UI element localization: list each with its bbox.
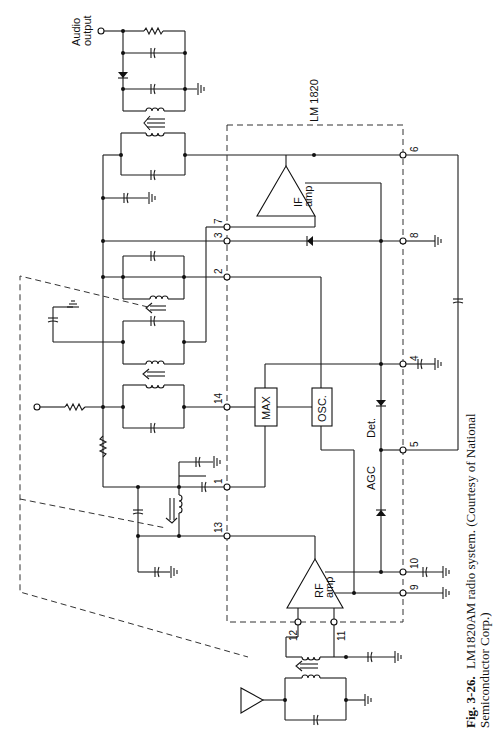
svg-text:13: 13 bbox=[213, 521, 224, 533]
audio-output-label: Audio output bbox=[70, 15, 93, 46]
svg-text:11: 11 bbox=[336, 630, 347, 641]
chip-label: LM 1820 bbox=[308, 79, 320, 122]
ground-icon bbox=[443, 587, 449, 599]
svg-text:OSC.: OSC. bbox=[316, 395, 328, 422]
svg-text:1: 1 bbox=[213, 478, 224, 484]
svg-text:5: 5 bbox=[409, 441, 420, 447]
inductor-icon bbox=[146, 385, 164, 388]
caption-text-line2: Semiconductor Corp.) bbox=[477, 612, 492, 728]
pin-10 bbox=[400, 569, 406, 575]
svg-text:2: 2 bbox=[213, 268, 224, 274]
if-tank-pin7 bbox=[48, 227, 227, 379]
pin-6 bbox=[400, 152, 406, 158]
inductor-icon bbox=[146, 133, 164, 136]
if-amp-block: IF amp bbox=[227, 153, 381, 572]
mixer-tank-pin14 bbox=[34, 385, 227, 433]
ground-icon bbox=[435, 358, 441, 370]
svg-text:14: 14 bbox=[213, 392, 224, 404]
if-output-tank bbox=[119, 133, 187, 180]
ground-icon bbox=[443, 566, 449, 578]
svg-text:10: 10 bbox=[409, 557, 420, 569]
ground-icon bbox=[365, 694, 371, 706]
inductor-icon bbox=[150, 296, 168, 299]
ground-icon bbox=[198, 83, 204, 95]
mixer-block: MAX bbox=[227, 388, 312, 487]
ground-icon bbox=[67, 301, 79, 307]
antenna-icon bbox=[241, 688, 263, 713]
diode-icon bbox=[376, 400, 386, 406]
resistor-icon bbox=[65, 404, 85, 410]
svg-text:3: 3 bbox=[213, 232, 224, 238]
inductor-icon bbox=[146, 108, 164, 111]
pin-11 bbox=[331, 619, 337, 625]
ground-icon bbox=[435, 235, 441, 247]
pin-7 bbox=[224, 224, 230, 230]
svg-text:4: 4 bbox=[409, 355, 420, 361]
svg-text:12: 12 bbox=[288, 629, 299, 641]
figure-number: Fig. 3-26. bbox=[463, 676, 478, 728]
pin-14 bbox=[224, 404, 230, 410]
inductor-icon bbox=[302, 657, 320, 660]
svg-text:6: 6 bbox=[409, 146, 420, 152]
lm1820-radio-schematic: Audio output bbox=[0, 0, 493, 735]
right-external bbox=[403, 155, 463, 599]
rf-amp-block: RF amp bbox=[227, 536, 403, 622]
audio-output-network: Audio output bbox=[70, 15, 204, 111]
svg-text:9: 9 bbox=[409, 584, 420, 590]
pin-1 bbox=[224, 484, 230, 490]
ground-icon bbox=[214, 456, 220, 468]
svg-text:Det.: Det. bbox=[365, 418, 377, 438]
ground-icon bbox=[395, 651, 401, 663]
pin-12 bbox=[295, 619, 301, 625]
svg-text:8: 8 bbox=[409, 232, 420, 238]
inductor-icon bbox=[146, 361, 164, 364]
pin-13 bbox=[224, 533, 230, 539]
pin-3 bbox=[224, 238, 230, 244]
pin-2 bbox=[224, 274, 230, 280]
inductor-icon bbox=[179, 495, 182, 513]
diode-icon bbox=[307, 236, 313, 246]
figure-caption: Fig. 3-26. LM1820AM radio system. (Court… bbox=[463, 413, 492, 728]
ground-icon bbox=[171, 566, 177, 578]
pin-9 bbox=[400, 590, 406, 596]
inductor-icon bbox=[302, 675, 320, 678]
oscillator-network bbox=[103, 456, 227, 578]
diode-icon bbox=[376, 510, 386, 516]
if-transformer-core bbox=[144, 116, 165, 130]
pin3-internal bbox=[227, 236, 403, 246]
svg-text:MAX: MAX bbox=[260, 396, 272, 421]
resistor-icon bbox=[144, 28, 163, 34]
caption-text-line1: LM1820AM radio system. (Courtesy of Nati… bbox=[463, 413, 478, 669]
pin-8 bbox=[400, 238, 406, 244]
diode-icon bbox=[118, 72, 128, 78]
audio-output-terminal bbox=[98, 28, 104, 34]
supply-terminal bbox=[34, 404, 40, 410]
svg-text:Fig. 3-26. LM1820AM radi: Fig. 3-26. LM1820AM radio system. (Court… bbox=[463, 413, 478, 728]
pin-5 bbox=[400, 447, 406, 453]
svg-text:7: 7 bbox=[213, 218, 224, 224]
detector-agc: Det. AGC bbox=[365, 400, 403, 574]
svg-text:AGC: AGC bbox=[365, 466, 377, 490]
ground-icon bbox=[149, 192, 155, 204]
if-tank-pin2 bbox=[103, 251, 227, 313]
pin-4 bbox=[400, 361, 406, 367]
antenna-input bbox=[241, 622, 401, 725]
oscillator-block: OSC. bbox=[312, 388, 354, 593]
